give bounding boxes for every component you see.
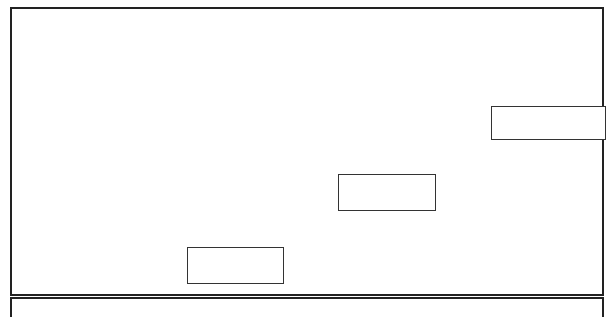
callout-intersection-0-0 xyxy=(338,174,436,211)
callout-intersection-neg1-neg1 xyxy=(187,247,284,284)
callout-intersection-1-1 xyxy=(491,106,606,140)
